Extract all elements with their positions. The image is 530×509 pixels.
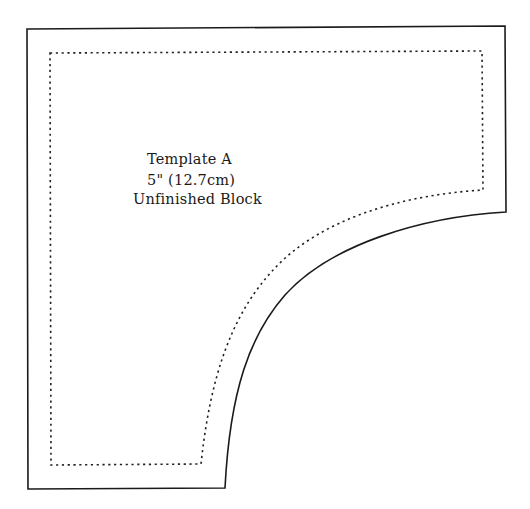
- cut-line-outline: [27, 26, 506, 489]
- template-size: 5" (12.7cm): [147, 171, 235, 189]
- template-subtitle: Unfinished Block: [133, 190, 262, 208]
- template-diagram: [0, 0, 530, 509]
- seam-line-outline: [50, 51, 483, 465]
- template-title: Template A: [147, 150, 232, 168]
